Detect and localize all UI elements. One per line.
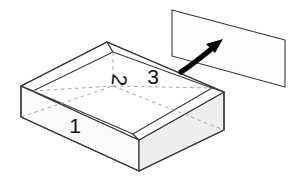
face-label-3: 3 [147,65,159,88]
diagram-canvas: 1 2 3 [0,0,298,184]
face-label-1: 1 [69,114,81,137]
lid-panel-group [172,10,285,87]
face-label-2: 2 [107,73,131,87]
isometric-box-diagram: 1 2 3 [0,0,298,184]
lid-panel-face [172,10,285,87]
